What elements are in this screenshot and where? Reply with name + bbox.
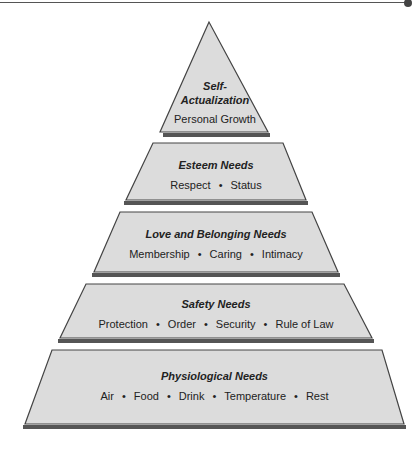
level-physiological: Physiological Needs Air•Food•Drink•Tempe… [25, 370, 404, 402]
item: Order [168, 318, 196, 330]
level-title: Physiological Needs [25, 370, 404, 382]
level-title: Love and Belonging Needs [94, 228, 338, 240]
bullet-separator: • [212, 390, 216, 402]
item: Status [231, 179, 262, 191]
bullet-separator: • [198, 248, 202, 260]
level-esteem: Esteem Needs Respect•Status [126, 159, 306, 191]
item: Rule of Law [275, 318, 333, 330]
level-title: Actualization [160, 93, 270, 107]
level-items: Protection•Order•Security•Rule of Law [60, 318, 372, 330]
item: Drink [179, 390, 205, 402]
level-title: Esteem Needs [126, 159, 306, 171]
item: Food [134, 390, 159, 402]
level-items: Air•Food•Drink•Temperature•Rest [25, 390, 404, 402]
level-items: Respect•Status [126, 179, 306, 191]
item: Intimacy [262, 248, 303, 260]
level-title: Safety Needs [60, 298, 372, 310]
item: Respect [170, 179, 210, 191]
level-items: Personal Growth [160, 113, 270, 125]
bullet-separator: • [122, 390, 126, 402]
item: Security [216, 318, 256, 330]
level-safety: Safety Needs Protection•Order•Security•R… [60, 298, 372, 330]
bullet-separator: • [204, 318, 208, 330]
item: Membership [129, 248, 190, 260]
bullet-separator: • [294, 390, 298, 402]
bullet-separator: • [264, 318, 268, 330]
item: Caring [210, 248, 242, 260]
item: Temperature [224, 390, 286, 402]
bullet-separator: • [167, 390, 171, 402]
level-self-actualization: Self- Actualization Personal Growth [160, 79, 270, 125]
item: Protection [98, 318, 148, 330]
bullet-separator: • [219, 179, 223, 191]
item: Air [100, 390, 113, 402]
level-title: Self- [160, 79, 270, 93]
bullet-separator: • [156, 318, 160, 330]
level-items: Membership•Caring•Intimacy [94, 248, 338, 260]
bullet-separator: • [250, 248, 254, 260]
level-love-belonging: Love and Belonging Needs Membership•Cari… [94, 228, 338, 260]
item: Rest [306, 390, 329, 402]
